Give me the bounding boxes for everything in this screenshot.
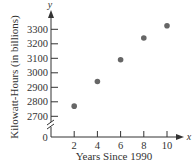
y-tick-label: 3200	[27, 38, 48, 49]
data-point	[71, 103, 77, 109]
y-tick-label: 2800	[27, 96, 48, 107]
y-axis-ticks: 2700280029003000310032003300	[27, 24, 58, 122]
y-tick-label: 3100	[27, 53, 48, 64]
data-point	[141, 35, 147, 41]
x-tick-label: 10	[162, 140, 173, 151]
x-axis-title: Years Since 1990	[76, 150, 153, 162]
y-axis-variable: y	[47, 0, 53, 10]
origin-label: 0	[42, 132, 47, 143]
data-point	[118, 57, 124, 63]
y-tick-label: 3300	[27, 24, 48, 35]
x-axis-variable: x	[186, 131, 192, 142]
axes	[47, 10, 184, 140]
y-tick-label: 3000	[27, 67, 48, 78]
data-point	[164, 23, 170, 29]
y-axis-title: Kilowatt-Hours (in billions)	[8, 15, 21, 139]
y-axis-arrow-icon	[48, 10, 54, 18]
x-axis-arrow-icon	[176, 134, 184, 140]
y-tick-label: 2700	[27, 111, 48, 122]
data-point	[95, 79, 101, 85]
y-tick-label: 2900	[27, 82, 48, 93]
scatter-chart: 2700280029003000310032003300 246810 Kilo…	[0, 0, 196, 167]
data-points	[71, 23, 169, 109]
x-axis-ticks: 246810	[72, 131, 173, 151]
